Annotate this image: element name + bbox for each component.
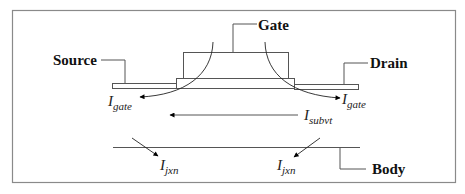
gate-poly	[184, 53, 289, 79]
mosfet-leakage-diagram: Source Gate Drain Igate Igate Isubvt Bod…	[0, 0, 465, 194]
igate-right-label: Igate	[341, 91, 366, 110]
source-region	[113, 84, 177, 89]
isubvt-label: Isubvt	[303, 107, 333, 126]
ijxn-left-label: Ijxn	[159, 157, 179, 176]
source-label: Source	[53, 52, 97, 68]
body-label: Body	[372, 161, 406, 177]
gate-label: Gate	[258, 17, 289, 33]
source-terminal: Source	[53, 52, 177, 89]
drain-label: Drain	[370, 55, 408, 71]
drain-terminal: Drain	[295, 55, 409, 90]
body-leader-line	[340, 147, 366, 169]
gate-terminal: Gate	[177, 17, 295, 89]
ijxn-right-label: Ijxn	[276, 157, 296, 176]
body-terminal: Body	[113, 147, 406, 177]
gate-leader-line	[233, 24, 257, 52]
igate-left-label: Igate	[107, 93, 132, 112]
diagram-frame	[13, 11, 456, 183]
drain-leader-line	[344, 63, 368, 84]
source-leader-line	[101, 60, 125, 83]
drain-region	[295, 85, 359, 90]
